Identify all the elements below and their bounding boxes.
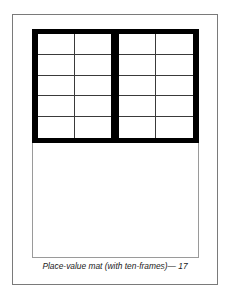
ten-frame-cell — [119, 76, 156, 97]
ten-frame-cell — [75, 34, 112, 55]
ten-frame-cell — [75, 96, 112, 117]
ten-frame-cell — [38, 117, 75, 138]
ten-frame-cell — [75, 117, 112, 138]
ten-frame-cell — [156, 96, 193, 117]
ten-frame-cell — [38, 76, 75, 97]
ten-frame-cell — [38, 96, 75, 117]
ten-frame-cell — [119, 117, 156, 138]
ten-frames-section — [32, 29, 199, 143]
ten-frame-cell — [156, 117, 193, 138]
ten-frame-cell — [38, 55, 75, 76]
ten-frame-cell — [75, 76, 112, 97]
ten-frame-cell — [156, 55, 193, 76]
caption: Place-value mat (with ten-frames)— 17 — [12, 261, 218, 271]
ten-frame-cell — [119, 96, 156, 117]
ten-frame-cell — [75, 55, 112, 76]
ten-frame-left — [38, 34, 111, 138]
ten-frame-cell — [38, 34, 75, 55]
ten-frame-cell — [119, 34, 156, 55]
ten-frame-right — [119, 34, 193, 138]
ones-area — [32, 143, 199, 258]
ten-frame-cell — [156, 34, 193, 55]
ten-frame-cell — [119, 55, 156, 76]
ten-frame-cell — [156, 76, 193, 97]
